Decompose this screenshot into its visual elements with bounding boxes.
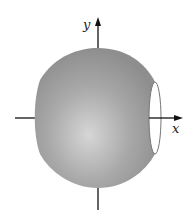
y-axis-label: y xyxy=(82,17,91,32)
truncated-sphere-solid xyxy=(35,48,155,188)
solid-of-revolution-diagram: y x xyxy=(0,0,194,221)
x-axis-label: x xyxy=(172,121,180,136)
y-axis-arrowhead-icon xyxy=(95,17,101,26)
